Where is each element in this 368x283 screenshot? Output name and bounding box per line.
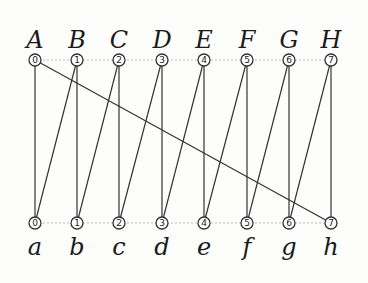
top-node-G: 6 [283, 54, 295, 66]
node-number: 0 [32, 55, 38, 65]
node-number: 4 [201, 55, 207, 65]
top-label-C: C [110, 26, 128, 54]
edges [35, 60, 331, 223]
bottom-label-e: e [197, 233, 211, 261]
node-number: 1 [74, 55, 80, 65]
bottom-label-c: c [112, 233, 125, 261]
bottom-node-g: 6 [283, 217, 295, 229]
bottom-label-d: d [154, 233, 169, 261]
node-number: 5 [244, 55, 250, 65]
bottom-node-e: 4 [198, 217, 210, 229]
top-node-C: 2 [113, 54, 125, 66]
node-number: 5 [244, 218, 250, 228]
top-node-D: 3 [156, 54, 168, 66]
bipartite-graph-diagram: 01234567 01234567 ABCDEFGH abcdefgh [0, 0, 368, 283]
top-node-E: 4 [198, 54, 210, 66]
bottom-node-d: 3 [156, 217, 168, 229]
edge-H-g [289, 60, 331, 223]
edge-F-e [204, 60, 247, 223]
top-node-B: 1 [71, 54, 83, 66]
top-label-E: E [194, 26, 213, 54]
node-number: 3 [159, 218, 165, 228]
edge-D-c [119, 60, 162, 223]
node-number: 2 [116, 55, 122, 65]
edge-G-f [247, 60, 289, 223]
node-number: 4 [201, 218, 207, 228]
bottom-label-a: a [28, 233, 42, 261]
node-number: 6 [286, 218, 292, 228]
node-number: 7 [328, 218, 334, 228]
top-label-B: B [67, 26, 86, 54]
bottom-node-b: 1 [71, 217, 83, 229]
edge-B-a [35, 60, 77, 223]
top-node-A: 0 [29, 54, 41, 66]
bottom-label-b: b [69, 233, 84, 261]
top-label-D: D [151, 26, 171, 54]
top-row-labels: ABCDEFGH [24, 26, 342, 54]
edge-E-d [162, 60, 204, 223]
bottom-node-c: 2 [113, 217, 125, 229]
edge-C-b [77, 60, 119, 223]
top-label-H: H [320, 26, 343, 54]
bottom-label-g: g [281, 233, 296, 261]
node-number: 2 [116, 218, 122, 228]
top-label-G: G [279, 26, 298, 54]
bottom-node-a: 0 [29, 217, 41, 229]
bottom-label-h: h [323, 233, 338, 261]
node-number: 0 [32, 218, 38, 228]
top-label-A: A [24, 26, 43, 54]
node-number: 3 [159, 55, 165, 65]
top-node-F: 5 [241, 54, 253, 66]
bottom-node-h: 7 [325, 217, 337, 229]
bottom-row-labels: abcdefgh [28, 233, 339, 261]
bottom-label-f: f [241, 233, 256, 261]
bottom-node-f: 5 [241, 217, 253, 229]
top-label-F: F [238, 26, 257, 54]
node-number: 1 [74, 218, 80, 228]
node-number: 6 [286, 55, 292, 65]
node-number: 7 [328, 55, 334, 65]
top-node-H: 7 [325, 54, 337, 66]
